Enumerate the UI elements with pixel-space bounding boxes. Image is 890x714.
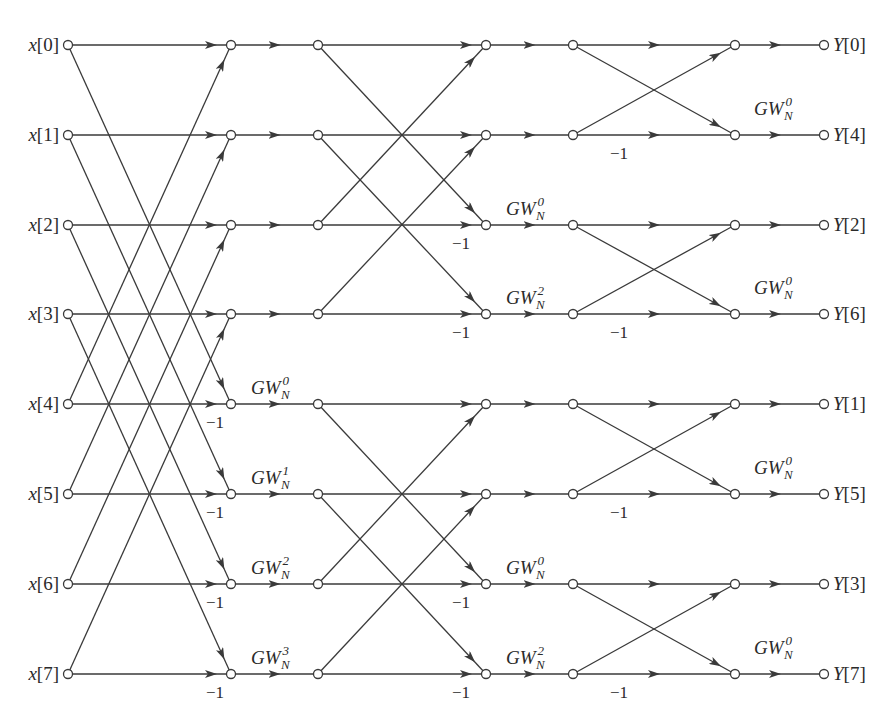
minus-one-label: −1: [206, 413, 224, 432]
arrowhead: [470, 297, 471, 298]
node: [820, 400, 829, 409]
node: [227, 670, 236, 679]
twiddle-factor-label: GW2N: [251, 553, 291, 582]
arrowhead: [470, 61, 471, 62]
output-label: Y[7]: [833, 663, 866, 684]
node: [569, 310, 578, 319]
arrowhead: [714, 302, 716, 303]
minus-one-label: −1: [610, 144, 628, 163]
node: [820, 131, 829, 140]
node: [64, 490, 73, 499]
minus-one-label: −1: [452, 234, 470, 253]
edges: [68, 45, 824, 674]
node: [227, 221, 236, 230]
minus-one-label: −1: [610, 503, 628, 522]
minus-one-label: −1: [206, 593, 224, 612]
arrowhead: [470, 151, 471, 152]
node: [569, 670, 578, 679]
node: [227, 490, 236, 499]
fft-flow-graph: x[0]x[1]x[2]x[3]x[4]x[5]x[6]x[7]Y[0]Y[4]…: [0, 0, 890, 714]
node: [820, 310, 829, 319]
arrowhead: [221, 652, 222, 654]
twiddle-factor-label: GW0N: [251, 373, 291, 402]
node: [569, 221, 578, 230]
output-label: Y[2]: [833, 214, 866, 235]
node: [64, 310, 73, 319]
node: [64, 670, 73, 679]
node: [482, 670, 491, 679]
node: [731, 580, 740, 589]
node: [227, 310, 236, 319]
node: [569, 580, 578, 589]
node: [482, 310, 491, 319]
input-label: x[7]: [27, 663, 59, 684]
node: [731, 310, 740, 319]
node: [227, 580, 236, 589]
node: [64, 131, 73, 140]
node: [314, 310, 323, 319]
nodes: [64, 41, 829, 679]
arrowhead: [470, 566, 471, 567]
node: [820, 41, 829, 50]
twiddle-factor-label: GW2N: [506, 283, 546, 312]
node: [227, 400, 236, 409]
input-label: x[2]: [27, 214, 59, 235]
node: [820, 221, 829, 230]
input-label: x[1]: [27, 124, 59, 145]
twiddle-factor-label: GW2N: [506, 643, 546, 672]
arrowhead: [470, 420, 471, 421]
output-label: Y[5]: [833, 483, 866, 504]
node: [731, 670, 740, 679]
node: [314, 580, 323, 589]
node: [227, 41, 236, 50]
arrowhead: [221, 245, 222, 247]
node: [569, 41, 578, 50]
arrowhead: [714, 662, 716, 663]
twiddle-factor-label: GW0N: [754, 273, 794, 302]
input-label: x[0]: [27, 34, 59, 55]
node: [314, 670, 323, 679]
node: [731, 221, 740, 230]
node: [314, 131, 323, 140]
input-label: x[6]: [27, 573, 59, 594]
twiddle-factor-label: GW0N: [754, 94, 794, 123]
node: [482, 490, 491, 499]
node: [64, 580, 73, 589]
node: [731, 41, 740, 50]
node: [64, 400, 73, 409]
output-label: Y[4]: [833, 124, 866, 145]
arrowhead: [221, 334, 222, 336]
twiddle-factor-label: GW0N: [506, 194, 546, 223]
node: [314, 490, 323, 499]
arrowhead: [221, 562, 222, 564]
minus-one-label: −1: [452, 683, 470, 702]
node: [820, 580, 829, 589]
input-label: x[3]: [27, 303, 59, 324]
input-label: x[4]: [27, 393, 59, 414]
node: [227, 131, 236, 140]
output-label: Y[6]: [833, 303, 866, 324]
output-label: Y[3]: [833, 573, 866, 594]
node: [482, 400, 491, 409]
node: [482, 131, 491, 140]
node: [820, 670, 829, 679]
input-label: x[5]: [27, 483, 59, 504]
node: [482, 580, 491, 589]
node: [314, 221, 323, 230]
arrowhead: [470, 207, 471, 208]
node: [64, 41, 73, 50]
arrowhead: [714, 236, 716, 237]
minus-one-label: −1: [610, 323, 628, 342]
minus-one-label: −1: [206, 683, 224, 702]
node: [731, 131, 740, 140]
node: [731, 490, 740, 499]
node: [731, 400, 740, 409]
twiddle-factor-label: GW0N: [754, 633, 794, 662]
twiddle-factor-label: GW1N: [251, 463, 291, 492]
minus-one-label: −1: [452, 323, 470, 342]
node: [482, 221, 491, 230]
arrowhead: [221, 382, 222, 384]
minus-one-label: −1: [206, 503, 224, 522]
node: [64, 221, 73, 230]
node: [314, 41, 323, 50]
